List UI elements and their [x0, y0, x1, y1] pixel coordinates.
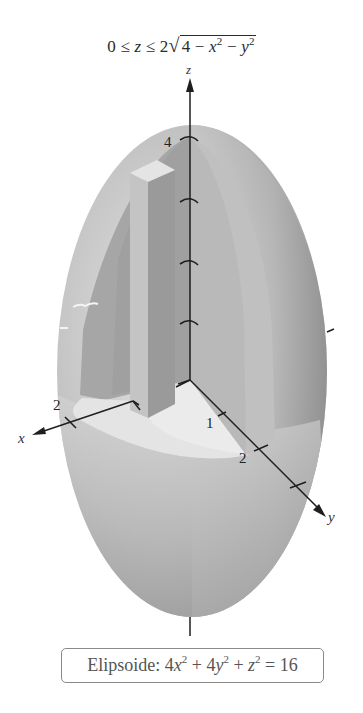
caption-name: Elipsoide:: [87, 655, 165, 675]
caption-x: x: [174, 655, 182, 675]
x-axis-label: x: [17, 430, 25, 446]
caption-rhs: = 16: [261, 655, 298, 675]
caption-coef: 4: [165, 655, 174, 675]
z-axis-label: z: [185, 62, 191, 77]
z-arrow-icon: [186, 78, 194, 92]
x-tick-label-2: 2: [53, 397, 61, 413]
y-tick-label-2: 2: [239, 450, 247, 466]
caption-plus-2: +: [229, 655, 248, 675]
x-arrow-icon: [32, 427, 46, 435]
ellipsoid-figure: z x y 4 2 1 2: [0, 0, 363, 713]
y-axis-label: y: [326, 509, 335, 525]
y-tick-label-1: 1: [206, 415, 214, 431]
ellipsoid-equation-caption: Elipsoide: 4x2 + 4y2 + z2 = 16: [61, 648, 324, 683]
volume-column: [130, 160, 175, 418]
z-tick-label-4: 4: [164, 134, 172, 150]
caption-plus-1: + 4: [187, 655, 215, 675]
